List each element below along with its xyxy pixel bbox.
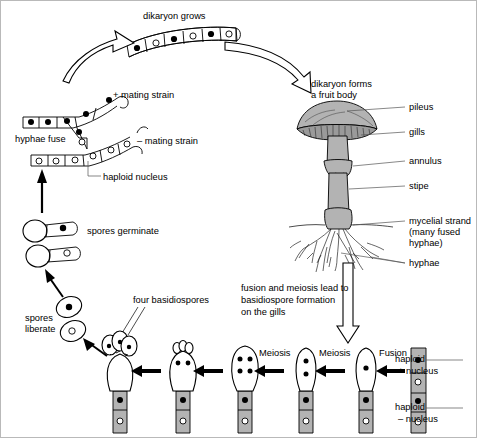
label-meiosis-2: Meiosis [319, 348, 351, 358]
label-plus-mating-strain: + mating strain [113, 90, 174, 100]
label-fusion-text-1: fusion and meiosis lead to [241, 283, 349, 293]
nucleus-plus [60, 225, 66, 231]
label-haploid-nucleus: haploid nucleus [103, 172, 168, 182]
nucleus-minus [64, 250, 70, 256]
arrow-germinate-to-hyphae [37, 169, 47, 213]
nucleus-plus [83, 111, 89, 117]
basidium-stage-four-nuclei [232, 346, 259, 433]
nucleus-minus [36, 158, 42, 164]
label-mycelial-3: hyphae) [409, 238, 443, 248]
label-liberate: liberate [25, 324, 56, 334]
nucleus-minus [415, 379, 421, 385]
label-dikaryon-forms: dikaryon forms [311, 79, 372, 89]
label-haploid-plus: haploid + nucleus [395, 353, 438, 377]
label-hyphae-fuse: hyphae fuse [15, 134, 66, 144]
nucleus-plus [208, 31, 214, 37]
nucleus-minus [53, 158, 59, 164]
nucleus-minus [72, 157, 78, 163]
nucleus-minus [79, 139, 85, 145]
label-dikaryon-grows: dikaryon grows [143, 11, 206, 21]
label-fusion-text-2: basidiospore formation [241, 295, 335, 305]
label-mycelial-2: (many fused [409, 227, 460, 237]
basidium-stage-fused [356, 348, 376, 433]
nucleus-plus [171, 36, 177, 42]
arrow-liberate-to-germinate [45, 269, 63, 297]
label-annulus: annulus [409, 156, 442, 166]
nucleus-plus [106, 97, 112, 103]
mushroom-fruit-body [289, 101, 393, 272]
label-spores: spores [25, 313, 53, 323]
basidium-stage-two-nuclei [296, 348, 316, 433]
spore-body [23, 220, 47, 242]
nucleus-plus [134, 45, 140, 51]
label-hyphae: hyphae [409, 258, 440, 268]
arrow-fruitbody-to-basidium [337, 263, 359, 343]
nucleus-minus [124, 141, 130, 147]
label-haploid-minus-2: – nucleus [395, 413, 438, 425]
label-haploid-minus: haploid – nucleus [395, 401, 438, 425]
nucleus-minus [190, 33, 196, 39]
nucleus-minus [90, 153, 96, 159]
label-meiosis-1: Meiosis [259, 348, 291, 358]
nucleus-minus [153, 40, 159, 46]
label-gills: gills [409, 127, 425, 137]
label-spores-germinate: spores germinate [87, 226, 159, 236]
nucleus-minus [69, 328, 75, 334]
basidium-stage-four-basidiospores [102, 331, 137, 433]
liberated-spores-group [53, 293, 89, 345]
label-stipe: stipe [409, 181, 429, 191]
nucleus-plus [66, 304, 72, 310]
nucleus-minus [226, 31, 232, 37]
nucleus-plus [28, 119, 34, 125]
label-haploid-plus-2: + nucleus [395, 365, 438, 377]
spore-body [26, 245, 50, 267]
label-four-basidiospores: four basidiospores [133, 295, 209, 305]
arrow-hyphae-to-dikaryon [63, 31, 134, 83]
dikaryon-hypha [127, 27, 240, 57]
nucleus-plus [45, 119, 51, 125]
nucleus-plus [76, 129, 82, 135]
label-haploid-minus-1: haploid [395, 401, 438, 413]
label-mycelial-1: mycelial strand [409, 216, 471, 226]
label-minus-mating-strain: – mating strain [137, 136, 198, 146]
label-fusion-text-3: on the gills [241, 307, 286, 317]
mushroom-life-cycle-diagram: dikaryon grows [0, 0, 477, 438]
label-haploid-plus-1: haploid [395, 353, 438, 365]
basidium-stage-budding [170, 341, 196, 434]
germinating-spores-group [23, 220, 80, 267]
arrow-dikaryon-to-fruitbody [225, 42, 311, 93]
nucleus-minus [108, 147, 114, 153]
label-a-fruit-body: a fruit body [311, 90, 357, 100]
label-pileus: pileus [409, 102, 434, 112]
